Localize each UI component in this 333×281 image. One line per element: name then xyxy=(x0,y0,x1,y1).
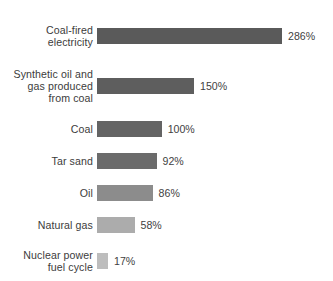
bar-category-label: Nuclear power fuel cycle xyxy=(0,249,93,273)
bar-track: 150% xyxy=(93,78,333,94)
bar-row: Nuclear power fuel cycle17% xyxy=(0,242,333,280)
bar-segment xyxy=(97,185,153,201)
bar-segment xyxy=(97,28,282,44)
bar-value-label: 92% xyxy=(157,155,184,167)
bar-category-label: Synthetic oil and gas produced from coal xyxy=(0,68,93,105)
bar-segment xyxy=(97,217,135,233)
bar-category-label: Coal-fired electricity xyxy=(0,24,93,48)
bar-row: Natural gas58% xyxy=(0,210,333,240)
bar-value-label: 100% xyxy=(162,123,195,135)
bar-segment xyxy=(97,121,162,137)
bar-track: 17% xyxy=(93,253,333,269)
bar-row: Coal100% xyxy=(0,114,333,144)
bar-row: Synthetic oil and gas produced from coal… xyxy=(0,60,333,112)
bar-segment xyxy=(97,153,157,169)
bar-row: Tar sand92% xyxy=(0,146,333,176)
bar-row: Oil86% xyxy=(0,178,333,208)
bar-value-label: 58% xyxy=(135,219,162,231)
bar-track: 92% xyxy=(93,153,333,169)
bar-value-label: 86% xyxy=(153,187,180,199)
bar-value-label: 17% xyxy=(108,255,135,267)
bar-track: 86% xyxy=(93,185,333,201)
bar-track: 286% xyxy=(93,28,333,44)
bar-category-label: Oil xyxy=(0,187,93,199)
bar-value-label: 150% xyxy=(194,80,227,92)
bar-category-label: Natural gas xyxy=(0,219,93,231)
horizontal-bar-chart: Coal-fired electricity286%Synthetic oil … xyxy=(0,0,333,281)
bar-category-label: Coal xyxy=(0,123,93,135)
bar-category-label: Tar sand xyxy=(0,155,93,167)
bar-track: 58% xyxy=(93,217,333,233)
bar-row: Coal-fired electricity286% xyxy=(0,14,333,58)
bar-value-label: 286% xyxy=(282,30,315,42)
bar-segment xyxy=(97,78,194,94)
bar-segment xyxy=(97,253,108,269)
bar-track: 100% xyxy=(93,121,333,137)
